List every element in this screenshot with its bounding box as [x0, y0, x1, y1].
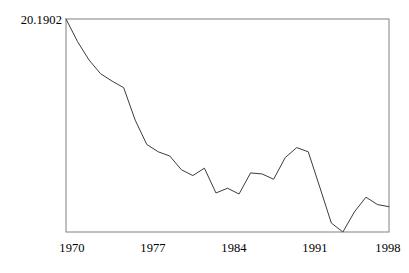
line-chart: 20.1902 1970 1977 1984 1991 1998: [0, 0, 409, 273]
x-axis-tick-label-1998: 1998: [362, 242, 409, 255]
chart-plot-area: [0, 0, 409, 273]
data-series-line: [66, 19, 389, 232]
x-axis-tick-label-1970: 1970: [46, 242, 98, 255]
x-axis-tick-label-1991: 1991: [289, 242, 341, 255]
y-axis-max-label: 20.1902: [0, 14, 62, 27]
x-axis-tick-label-1984: 1984: [208, 242, 260, 255]
plot-frame-border: [66, 19, 389, 232]
x-axis-tick-label-1977: 1977: [127, 242, 179, 255]
